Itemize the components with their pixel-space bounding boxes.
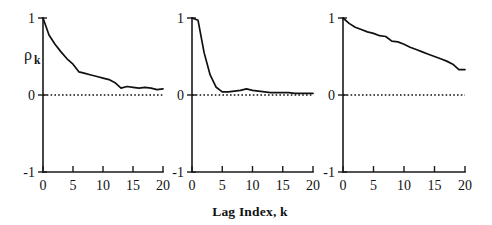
acf-panel-middle: 10-105101520: [172, 11, 320, 193]
x-tick-label: 5: [370, 178, 377, 193]
x-tick-label: 5: [219, 178, 226, 193]
y-tick-label: 0: [28, 88, 35, 103]
x-axis-label: Lag Index, k: [212, 204, 288, 219]
y-tick-label: 0: [328, 88, 335, 103]
acf-curve: [192, 18, 313, 93]
y-tick-label: 1: [328, 11, 335, 26]
y-tick-label: -1: [23, 165, 35, 180]
acf-plot-svg: 10-10510152010-10510152010-105101520 Lag…: [0, 0, 492, 225]
y-tick-label: 1: [28, 11, 35, 26]
acf-curve: [43, 18, 163, 90]
x-tick-label: 0: [340, 178, 347, 193]
y-axis-label-rho: ρ: [24, 46, 32, 64]
x-tick-label: 0: [189, 178, 196, 193]
x-tick-label: 15: [126, 178, 140, 193]
y-tick-label: -1: [323, 165, 335, 180]
acf-panel-left: 10-105101520: [23, 11, 170, 193]
x-tick-label: 10: [246, 178, 260, 193]
y-tick-label: 1: [177, 11, 184, 26]
acf-figure: 10-10510152010-10510152010-105101520 Lag…: [0, 0, 492, 225]
x-tick-label: 20: [306, 178, 320, 193]
y-axis-label-subscript-k: k: [34, 54, 41, 66]
x-tick-label: 15: [276, 178, 290, 193]
x-tick-label: 20: [458, 178, 472, 193]
acf-panel-right: 10-105101520: [323, 11, 472, 193]
y-tick-label: -1: [172, 165, 184, 180]
x-tick-label: 5: [70, 178, 77, 193]
x-tick-label: 20: [156, 178, 170, 193]
x-tick-label: 15: [428, 178, 442, 193]
x-tick-label: 0: [40, 178, 47, 193]
acf-curve: [343, 18, 465, 70]
x-tick-label: 10: [397, 178, 411, 193]
y-tick-label: 0: [177, 88, 184, 103]
x-tick-label: 10: [96, 178, 110, 193]
